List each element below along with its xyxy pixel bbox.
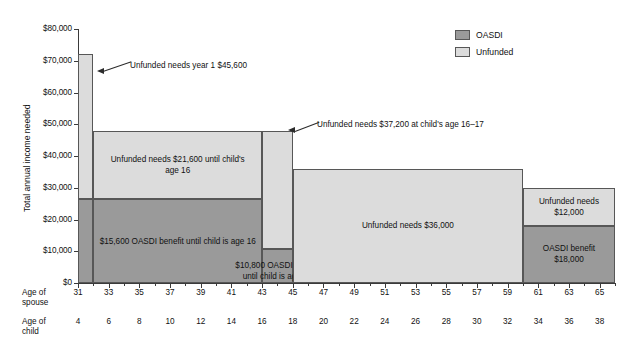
x-tick-mark: [431, 283, 432, 286]
x-tick-mark: [400, 283, 401, 286]
x-tick-label-spouse: 65: [586, 288, 614, 297]
x-axis-line: [78, 283, 615, 284]
y-tick-label: $10,000: [30, 246, 72, 255]
x-tick-label-child: 36: [555, 317, 583, 326]
y-tick-label: $0: [30, 278, 72, 287]
legend-swatch-unfunded: [455, 47, 470, 57]
legend-label-unfunded: Unfunded: [476, 47, 513, 57]
x-tick-mark: [124, 283, 125, 286]
x-tick-label-spouse: 57: [463, 288, 491, 297]
x-axis-row-spouse-title-line2: spouse: [22, 298, 48, 308]
bar-segment-unfunded[interactable]: [293, 169, 523, 283]
x-tick-mark: [584, 283, 585, 286]
x-tick-label-child: 38: [586, 317, 614, 326]
annotation-child-16-17-text: Unfunded needs $37,200 at child's age 16…: [317, 120, 484, 129]
x-axis-row-spouse-title: Age of spouse: [22, 288, 48, 308]
x-tick-mark: [247, 283, 248, 286]
x-tick-mark: [462, 283, 463, 286]
annotation-year-1-arrowhead: [97, 68, 104, 74]
y-tick-label: $80,000: [30, 24, 72, 33]
x-tick-label-spouse: 39: [187, 288, 215, 297]
x-tick-label-child: 28: [432, 317, 460, 326]
x-tick-label-spouse: 61: [524, 288, 552, 297]
bar-segment-oasdi[interactable]: [93, 199, 262, 283]
x-tick-label-child: 18: [279, 317, 307, 326]
x-tick-mark: [492, 283, 493, 286]
x-tick-label-child: 12: [187, 317, 215, 326]
bar-segment-oasdi[interactable]: [78, 199, 93, 283]
x-tick-mark: [93, 283, 94, 286]
legend-label-oasdi: OASDI: [476, 30, 503, 40]
y-tick-label: $70,000: [30, 56, 72, 65]
bar-segment-oasdi[interactable]: [523, 226, 615, 283]
x-tick-label-child: 26: [402, 317, 430, 326]
x-axis-row-child-title-line2: child: [22, 327, 46, 337]
x-tick-label-child: 14: [217, 317, 245, 326]
x-tick-mark: [185, 283, 186, 286]
x-tick-label-child: 24: [371, 317, 399, 326]
x-tick-mark: [523, 283, 524, 286]
x-tick-label-spouse: 31: [64, 288, 92, 297]
legend-swatch-oasdi: [455, 30, 470, 40]
bar-segment-unfunded[interactable]: [93, 131, 262, 200]
annotation-year-1-text: Unfunded needs year 1 $45,600: [130, 61, 247, 70]
x-axis-row-child-title: Age of child: [22, 317, 46, 337]
x-tick-label-child: 20: [309, 317, 337, 326]
x-tick-label-spouse: 45: [279, 288, 307, 297]
y-tick-mark: [74, 29, 78, 30]
x-tick-label-spouse: 43: [248, 288, 276, 297]
x-axis-row-child-title-line1: Age of: [22, 317, 46, 327]
annotation-child-16-17-leader: [295, 122, 320, 132]
bar-segment-unfunded[interactable]: [78, 54, 93, 199]
x-tick-mark: [339, 283, 340, 286]
x-tick-label-child: 16: [248, 317, 276, 326]
x-tick-label-child: 22: [340, 317, 368, 326]
x-tick-label-spouse: 59: [494, 288, 522, 297]
x-tick-mark: [370, 283, 371, 286]
x-tick-label-spouse: 49: [340, 288, 368, 297]
x-tick-label-spouse: 55: [432, 288, 460, 297]
x-tick-mark: [277, 283, 278, 286]
x-tick-label-spouse: 51: [371, 288, 399, 297]
annotation-year-1-leader: [103, 61, 132, 72]
legend-item-oasdi[interactable]: OASDI: [455, 30, 503, 40]
y-tick-label: $30,000: [30, 183, 72, 192]
x-tick-mark: [554, 283, 555, 286]
x-tick-label-child: 30: [463, 317, 491, 326]
x-tick-label-spouse: 47: [309, 288, 337, 297]
x-axis-row-spouse-title-line1: Age of: [22, 288, 48, 298]
annotation-child-16-17-arrowhead: [288, 127, 295, 133]
y-tick-label: $20,000: [30, 215, 72, 224]
y-tick-label: $60,000: [30, 88, 72, 97]
x-tick-label-spouse: 33: [95, 288, 123, 297]
x-tick-label-spouse: 37: [156, 288, 184, 297]
bar-segment-oasdi[interactable]: [262, 249, 293, 283]
x-tick-mark: [216, 283, 217, 286]
chart-root: Total annual income needed $0$10,000$20,…: [0, 0, 628, 357]
x-tick-label-spouse: 53: [402, 288, 430, 297]
x-tick-label-spouse: 41: [217, 288, 245, 297]
x-tick-label-child: 4: [64, 317, 92, 326]
x-tick-label-child: 6: [95, 317, 123, 326]
y-tick-label: $50,000: [30, 119, 72, 128]
x-tick-mark: [308, 283, 309, 286]
x-tick-label-child: 10: [156, 317, 184, 326]
x-tick-label-child: 32: [494, 317, 522, 326]
x-tick-mark: [615, 283, 616, 286]
x-tick-label-child: 8: [125, 317, 153, 326]
x-tick-label-spouse: 35: [125, 288, 153, 297]
legend-item-unfunded[interactable]: Unfunded: [455, 47, 513, 57]
bar-segment-unfunded[interactable]: [262, 131, 293, 249]
x-tick-mark: [155, 283, 156, 286]
x-tick-label-child: 34: [524, 317, 552, 326]
bar-segment-unfunded[interactable]: [523, 188, 615, 226]
y-tick-label: $40,000: [30, 151, 72, 160]
x-tick-label-spouse: 63: [555, 288, 583, 297]
